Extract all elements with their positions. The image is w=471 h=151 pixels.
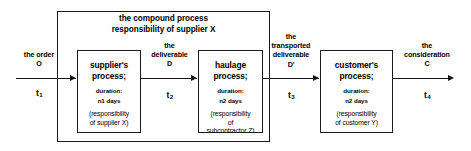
process-name-customer: customer's process; — [321, 60, 392, 82]
flow-label-transported-deliverable-line4: D' — [262, 60, 320, 69]
flow-label-deliverable-line3: D — [141, 59, 198, 68]
time-label-t1: t1 — [6, 88, 72, 98]
flow-label-deliverable: the deliverable D — [141, 41, 198, 69]
process-responsibility-haulage-line3: subcontractor Z) — [200, 127, 261, 133]
arrow-head-transported-deliverable — [313, 75, 319, 81]
process-name-haulage: haulage process; — [199, 60, 262, 82]
process-responsibility-supplier-line2: of supplier X) — [79, 119, 139, 128]
process-responsibility-customer-line1: (responsibility — [322, 110, 391, 119]
time-label-t3: t3 — [262, 90, 320, 100]
time-label-t2: t2 — [141, 90, 198, 100]
arrow-head-order — [70, 75, 76, 81]
flow-line-order — [16, 78, 76, 79]
process-name-supplier-line2: process; — [78, 71, 140, 82]
flow-label-deliverable-line2: deliverable — [141, 50, 198, 59]
flow-label-consideration-line1: the — [394, 41, 460, 50]
process-responsibility-haulage-line2: of — [200, 119, 261, 128]
process-responsibility-supplier-line1: (responsibility — [79, 110, 139, 119]
process-duration-supplier: duration: n1 days — [78, 86, 140, 106]
process-duration-customer: duration: n2 days — [321, 86, 392, 106]
process-name-customer-line1: customer's — [321, 60, 392, 71]
time-label-t4: t4 — [394, 90, 460, 100]
time-label-t2-subscript: 2 — [170, 93, 173, 100]
flow-label-transported-deliverable-line1: the — [262, 32, 320, 41]
flow-line-transported-deliverable — [263, 78, 319, 79]
flow-line-deliverable — [141, 78, 197, 79]
compound-process-title-line1: the compound process — [57, 14, 270, 25]
process-name-supplier: supplier's process; — [78, 60, 140, 82]
process-responsibility-haulage-line1: (responsibility — [200, 110, 261, 119]
process-name-customer-line2: process; — [321, 71, 392, 82]
flow-label-transported-deliverable-line3: deliverable — [262, 50, 320, 59]
process-box-customer[interactable]: customer's process; duration: n2 days (r… — [320, 50, 393, 133]
arrow-head-deliverable — [191, 75, 197, 81]
process-duration-haulage: duration: n2 days — [199, 86, 262, 106]
flow-label-transported-deliverable: the transported deliverable D' — [262, 32, 320, 69]
process-duration-value-supplier: n1 days — [78, 96, 140, 106]
time-label-t1-subscript: 1 — [39, 91, 42, 98]
process-responsibility-customer: (responsibility of customer Y) — [321, 110, 392, 127]
compound-process-title-line2: responsibility of supplier X — [57, 25, 270, 36]
flow-label-order-line1: the order — [6, 50, 72, 59]
flow-label-order-line2: O — [6, 59, 72, 68]
process-duration-label-haulage: duration: — [199, 86, 262, 96]
flow-line-consideration — [393, 78, 449, 79]
flow-label-consideration-line3: C — [394, 59, 460, 68]
flow-label-transported-deliverable-line2: transported — [262, 41, 320, 50]
process-responsibility-supplier: (responsibility of supplier X) — [78, 110, 140, 127]
process-duration-value-haulage: n2 days — [199, 96, 262, 106]
flow-label-order: the order O — [6, 50, 72, 68]
flow-label-consideration: the consideration C — [394, 41, 460, 69]
process-box-supplier[interactable]: supplier's process; duration: n1 days (r… — [77, 50, 141, 133]
time-label-t4-subscript: 4 — [427, 93, 430, 100]
compound-process-title: the compound process responsibility of s… — [57, 14, 270, 35]
process-duration-label-customer: duration: — [321, 86, 392, 96]
time-label-t2-symbol: t — [166, 90, 169, 100]
process-responsibility-customer-line2: of customer Y) — [322, 119, 391, 128]
flow-label-deliverable-line1: the — [141, 41, 198, 50]
process-name-haulage-line2: process; — [199, 71, 262, 82]
process-flow-diagram: the compound process responsibility of s… — [0, 0, 471, 151]
process-box-haulage[interactable]: haulage process; duration: n2 days (resp… — [198, 50, 263, 133]
flow-label-consideration-line2: consideration — [394, 50, 460, 59]
process-responsibility-haulage: (responsibility of subcontractor Z) — [199, 110, 262, 133]
time-label-t3-subscript: 3 — [291, 93, 294, 100]
process-name-supplier-line1: supplier's — [78, 60, 140, 71]
process-name-haulage-line1: haulage — [199, 60, 262, 71]
process-duration-value-customer: n2 days — [321, 96, 392, 106]
arrow-head-consideration — [448, 75, 454, 81]
process-duration-label-supplier: duration: — [78, 86, 140, 96]
